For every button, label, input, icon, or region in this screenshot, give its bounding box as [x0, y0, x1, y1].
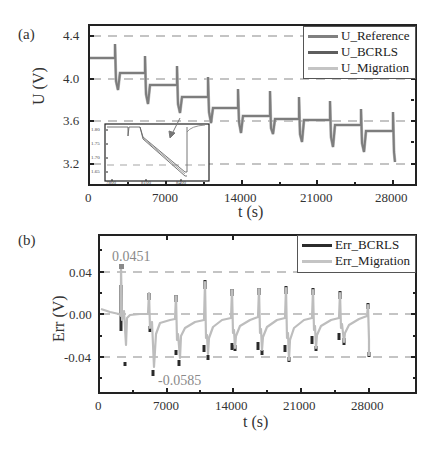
b-ytick-0-00: 0.00	[69, 307, 92, 323]
a-ytick-3-2: 3.2	[63, 156, 79, 172]
legend-item-u-bcrls: U_BCRLS	[304, 44, 415, 60]
b-yaxis-title: Err (V)	[50, 295, 68, 342]
inset-ytick-2: 1.75	[91, 141, 100, 146]
legend-swatch-err-bcrls	[302, 244, 332, 247]
panel-b-err-migration-series	[101, 266, 369, 367]
legend-swatch-err-migration	[302, 260, 332, 263]
inset-ytick-3: 1.70	[91, 155, 100, 160]
b-xtick-28000: 28000	[351, 398, 384, 414]
panel-a-legend: U_Reference U_BCRLS U_Migration	[303, 26, 416, 79]
inset-xtick-8100: 8100	[141, 180, 151, 185]
legend-label: Err_Migration	[335, 253, 410, 269]
a-xtick-7000: 7000	[152, 190, 178, 206]
legend-swatch-reference	[308, 35, 338, 38]
b-xaxis-title: t (s)	[243, 413, 268, 431]
inset-ytick-4: 1.65	[91, 169, 100, 174]
legend-label: U_Reference	[341, 28, 410, 44]
b-ytick-neg-0-04: -0.04	[64, 350, 91, 366]
a-xaxis-title: t (s)	[238, 203, 263, 221]
legend-item-err-bcrls: Err_BCRLS	[298, 237, 415, 253]
a-ytick-3-6: 3.6	[63, 113, 79, 129]
legend-label: Err_BCRLS	[335, 237, 399, 253]
panel-b-legend: Err_BCRLS Err_Migration	[297, 235, 416, 273]
legend-item-u-migration: U_Migration	[304, 60, 415, 76]
inset-xtick-8400: 8400	[176, 180, 186, 185]
a-xtick-0: 0	[85, 190, 92, 206]
b-xtick-0: 0	[95, 398, 102, 414]
panel-b-label: (b)	[18, 232, 36, 249]
a-yaxis-title: U (V)	[30, 67, 48, 105]
a-ytick-4-4: 4.4	[63, 28, 79, 44]
legend-item-u-reference: U_Reference	[304, 28, 415, 44]
inset-xtick-7800: 7800	[106, 180, 116, 185]
panel-a-inset	[105, 124, 209, 181]
annotation-min-value: -0.0585	[158, 373, 201, 389]
a-xtick-28000: 28000	[375, 190, 408, 206]
annotation-max-value: 0.0451	[112, 249, 151, 265]
legend-swatch-migration	[308, 67, 338, 70]
a-ytick-4-0: 4.0	[63, 71, 79, 87]
b-xtick-14000: 14000	[215, 398, 248, 414]
legend-swatch-bcrls	[308, 51, 338, 54]
b-xtick-21000: 21000	[283, 398, 316, 414]
a-xtick-21000: 21000	[300, 190, 333, 206]
inset-ytick-1: 1.80	[91, 127, 100, 132]
legend-label: U_Migration	[341, 60, 409, 76]
legend-label: U_BCRLS	[341, 44, 398, 60]
b-ytick-0-04: 0.04	[69, 265, 92, 281]
b-xtick-7000: 7000	[153, 398, 179, 414]
legend-item-err-migration: Err_Migration	[298, 253, 415, 269]
